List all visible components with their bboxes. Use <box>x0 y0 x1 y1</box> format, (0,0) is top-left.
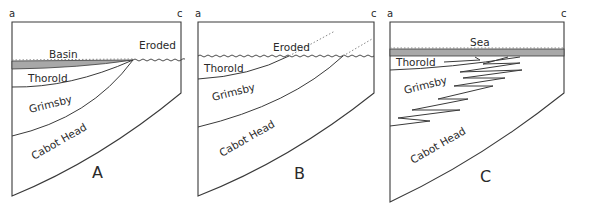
panel-c-label-thorold: Thorold <box>395 56 436 68</box>
panel-b-label-cabot-head: Cabot Head <box>217 117 276 158</box>
panel-a-label-eroded: Eroded <box>139 39 176 51</box>
panel-a: a c Basin Eroded Thorold Grimsby Cabot H… <box>9 8 185 196</box>
panel-a-label-grimsby: Grimsby <box>28 93 74 115</box>
panel-c-label-sea: Sea <box>470 36 490 48</box>
panel-b-label-eroded: Eroded <box>273 41 310 53</box>
panel-a-label-thorold: Thorold <box>27 72 68 84</box>
cross-section-figure: a c Basin Eroded Thorold Grimsby Cabot H… <box>0 0 589 211</box>
panel-b-label-thorold: Thorold <box>203 62 244 74</box>
panel-b-corner-right: c <box>371 8 377 19</box>
panel-b-label-grimsby: Grimsby <box>211 81 257 103</box>
panel-a-corner-left: a <box>9 8 15 19</box>
panel-c: a c Sea Thorold Grimsby Cabot Head C <box>387 8 567 202</box>
panel-a-label-basin: Basin <box>49 48 78 60</box>
panel-b: a c Eroded Thorold Grimsby Cabot Head B <box>195 8 377 196</box>
panel-a-erosion-surface <box>133 59 185 61</box>
panel-a-letter: A <box>92 163 103 182</box>
panel-a-label-cabot-head: Cabot Head <box>29 120 88 161</box>
panel-c-label-grimsby: Grimsby <box>403 74 449 96</box>
panel-b-erosion-surface <box>198 55 374 57</box>
panel-c-label-cabot-head: Cabot Head <box>408 124 467 165</box>
panel-c-corner-right: c <box>561 8 567 19</box>
panel-b-letter: B <box>294 164 305 183</box>
panel-b-grimsby-projection <box>343 39 372 56</box>
panel-b-corner-left: a <box>195 8 201 19</box>
panel-c-letter: C <box>480 167 491 186</box>
panel-c-sea-band <box>390 49 564 56</box>
panel-a-corner-right: c <box>177 8 183 19</box>
panel-c-corner-left: a <box>387 8 393 19</box>
